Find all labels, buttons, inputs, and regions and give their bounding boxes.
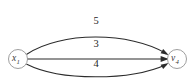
graph-canvas: 5 3 4 x1 v4 — [0, 0, 195, 82]
edge-weight-bottom: 4 — [93, 58, 99, 69]
node-source: x1 — [9, 50, 28, 69]
graph-figure: 5 3 4 x1 v4 — [0, 0, 195, 82]
arrowhead-top-icon — [161, 49, 169, 55]
node-target: v4 — [168, 50, 187, 69]
edge-weight-top: 5 — [93, 15, 98, 26]
arrowhead-bottom-icon — [161, 63, 169, 69]
edge-weight-middle: 3 — [93, 38, 98, 49]
